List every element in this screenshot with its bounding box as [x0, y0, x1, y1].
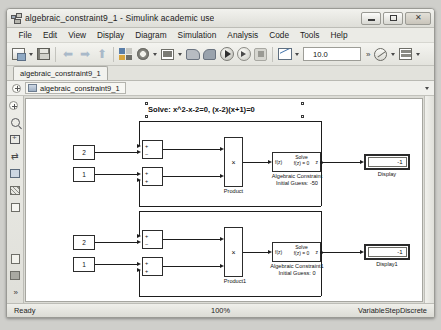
annotation-handle[interactable] — [145, 115, 148, 118]
chevron-down-icon[interactable] — [425, 87, 429, 90]
menu-code[interactable]: Code — [264, 28, 295, 42]
schedule-dropdown-icon[interactable] — [416, 53, 420, 56]
step-forward-button[interactable] — [235, 46, 252, 63]
feedback-line[interactable] — [321, 211, 322, 252]
model-settings-dropdown-icon[interactable] — [153, 53, 157, 56]
menu-analysis[interactable]: Analysis — [222, 28, 264, 42]
stop-time-input[interactable]: 10.0 — [303, 47, 361, 61]
back-button[interactable]: ⬅ — [59, 46, 76, 63]
window-controls: ✕ — [361, 12, 432, 25]
library-browser-button[interactable] — [117, 46, 134, 63]
maximize-button[interactable] — [383, 12, 403, 25]
signal-line[interactable] — [163, 266, 222, 267]
signal-line[interactable] — [95, 174, 139, 175]
annotation-text[interactable]: Solve: x^2-x-2=0, (x-2)(x+1)=0 — [148, 105, 255, 114]
toolbar-overflow-button[interactable]: » — [363, 50, 372, 59]
hatch-icon[interactable] — [9, 184, 22, 197]
feedback-line[interactable] — [139, 211, 140, 236]
model-explorer-button[interactable] — [159, 46, 176, 63]
model-settings-button[interactable] — [134, 46, 151, 63]
menu-help[interactable]: Help — [325, 28, 353, 42]
fast-restart-button[interactable] — [201, 46, 218, 63]
annotation-handle[interactable] — [301, 115, 304, 118]
sum-block[interactable]: + + — [142, 257, 163, 276]
feedback-line[interactable] — [139, 211, 321, 212]
breadcrumb-model-chip[interactable]: algebraic_constraint9_1 — [25, 82, 126, 94]
save-button[interactable] — [35, 46, 52, 63]
minimize-button[interactable] — [361, 12, 381, 25]
feedback-line[interactable] — [139, 180, 140, 206]
close-button[interactable]: ✕ — [405, 12, 431, 25]
feedback-line[interactable] — [321, 162, 322, 206]
signal-line[interactable] — [163, 239, 222, 240]
schedule-button[interactable] — [397, 46, 414, 63]
sum-block[interactable]: + − — [142, 230, 163, 249]
algebraic-constraint-block[interactable]: f(z) Solve f(z) = 0 z — [272, 242, 321, 262]
run-button[interactable] — [218, 46, 235, 63]
more-icon[interactable]: » — [9, 286, 22, 299]
forward-button[interactable]: ➡ — [76, 46, 93, 63]
expand-icon[interactable] — [12, 84, 21, 93]
tab-algebraic-constraint9-1[interactable]: algebraic_constraint9_1 — [13, 66, 108, 80]
product-block[interactable]: × — [224, 227, 243, 277]
performance-dropdown-icon[interactable] — [391, 53, 395, 56]
sum-block[interactable]: + + — [142, 167, 163, 186]
menu-tools[interactable]: Tools — [295, 28, 325, 42]
signal-line[interactable] — [163, 176, 222, 177]
annotation-handle[interactable] — [301, 102, 304, 105]
layers-icon[interactable] — [9, 269, 22, 282]
menu-simulation[interactable]: Simulation — [172, 28, 222, 42]
menu-edit[interactable]: Edit — [37, 28, 62, 42]
rectangle-icon[interactable] — [9, 201, 22, 214]
up-button[interactable]: ⬆ — [93, 46, 110, 63]
signal-line[interactable] — [163, 149, 222, 150]
signal-line[interactable] — [243, 252, 270, 253]
feedback-line[interactable] — [139, 121, 321, 122]
expand-panel-icon[interactable] — [9, 99, 22, 112]
algebraic-constraint-block[interactable]: f(z) Solve f(z) = 0 z — [272, 152, 321, 172]
signal-line[interactable] — [95, 152, 139, 153]
feedback-line[interactable] — [321, 252, 322, 296]
constant-block[interactable]: 1 — [73, 167, 95, 182]
signal-line[interactable] — [95, 264, 139, 265]
menu-diagram[interactable]: Diagram — [130, 28, 172, 42]
feedback-line[interactable] — [321, 121, 322, 162]
new-model-button[interactable] — [10, 46, 27, 63]
display-block[interactable]: -1 — [364, 154, 410, 170]
build-button[interactable] — [184, 46, 201, 63]
toolbar-separator — [55, 47, 56, 62]
fit-to-view-icon[interactable] — [9, 133, 22, 146]
feedback-line[interactable] — [139, 206, 321, 207]
menu-view[interactable]: View — [63, 28, 92, 42]
constant-block[interactable]: 1 — [73, 257, 95, 272]
resize-icon[interactable]: ⇄ — [9, 150, 22, 163]
sum-block[interactable]: + − — [142, 140, 163, 159]
signal-line[interactable] — [95, 242, 139, 243]
scope-button[interactable] — [276, 46, 293, 63]
signal-arrow — [137, 240, 141, 244]
signal-line[interactable] — [321, 162, 362, 163]
doc-icon[interactable] — [9, 252, 22, 265]
feedback-line[interactable] — [139, 296, 321, 297]
display-block[interactable]: -1 — [364, 244, 410, 260]
signal-line[interactable] — [243, 162, 270, 163]
menu-display[interactable]: Display — [92, 28, 130, 42]
constant-block[interactable]: 2 — [73, 235, 95, 250]
scope-dropdown-icon[interactable] — [295, 53, 299, 56]
status-zoom: 100% — [211, 306, 230, 315]
vertical-scrollbar[interactable] — [424, 96, 434, 303]
model-canvas[interactable]: Solve: x^2-x-2=0, (x-2)(x+1)=0 2 1 — [25, 98, 423, 302]
annotation-handle[interactable] — [145, 102, 148, 105]
new-model-dropdown-icon[interactable] — [29, 53, 33, 56]
algebraic-constraint-output-port: z — [316, 249, 319, 255]
model-explorer-dropdown-icon[interactable] — [178, 53, 182, 56]
feedback-line[interactable] — [139, 121, 140, 146]
signal-line[interactable] — [321, 252, 362, 253]
image-icon[interactable] — [9, 167, 22, 180]
feedback-line[interactable] — [139, 270, 140, 296]
menu-file[interactable]: File — [13, 28, 37, 42]
constant-block[interactable]: 2 — [73, 145, 95, 160]
zoom-icon[interactable] — [9, 116, 22, 129]
performance-button[interactable] — [372, 46, 389, 63]
product-block[interactable]: × — [224, 137, 243, 187]
